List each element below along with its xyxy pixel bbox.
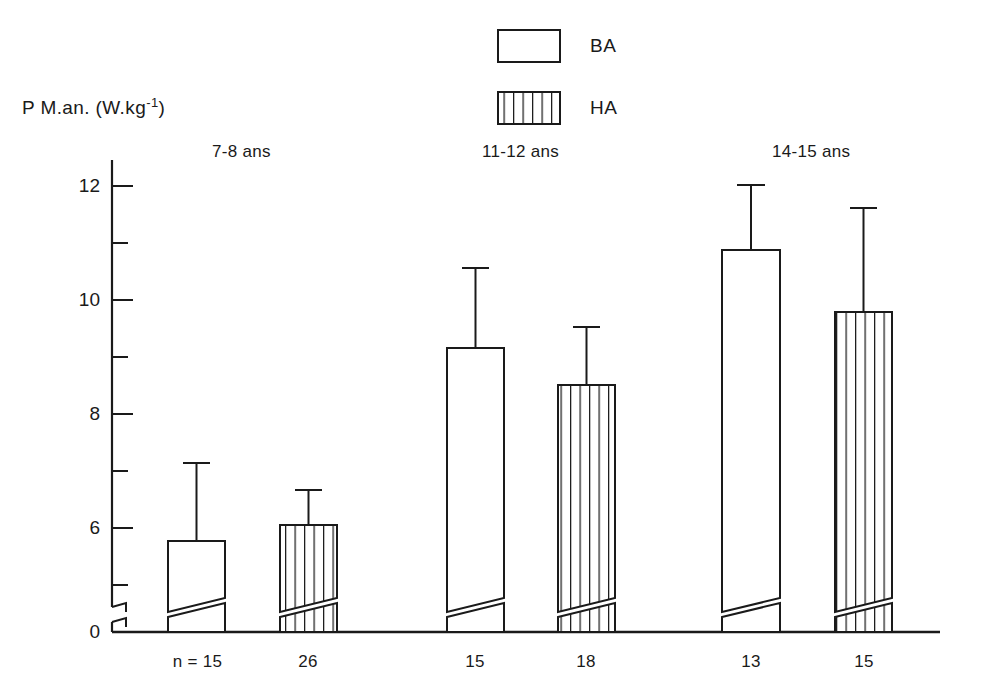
bar-ha-11-12: [558, 327, 615, 632]
axis-lines: [112, 160, 940, 632]
bar-ha-14-15: [835, 208, 892, 632]
bar-ba-7-8: [168, 463, 225, 632]
chart-figure: P M.an. (W.kg-1) 7-8 ans 11-12 ans 14-15…: [0, 0, 986, 699]
legend-swatch-ha: [498, 92, 560, 124]
bar-ha-7-8: [280, 490, 337, 632]
bar-ba-11-12: [447, 268, 504, 632]
legend-swatch-ba: [498, 30, 560, 62]
bar-ba-14-15: [722, 185, 780, 632]
y-axis-ticks: [112, 186, 133, 585]
legend: [498, 30, 560, 124]
chart-svg: [0, 0, 986, 699]
